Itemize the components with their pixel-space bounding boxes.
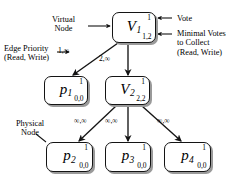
- edge-label-v2-p2: ∞,∞: [74, 117, 87, 125]
- annotation-vote: Vote: [177, 14, 192, 23]
- node-v1-minimal-votes: 1,2: [142, 33, 151, 41]
- edge-label-v2-p4: ∞,∞: [157, 117, 170, 125]
- node-p2[interactable]: 1 p2 0,0: [46, 142, 93, 172]
- virtual-node-tree-diagram: 1 V1 1,2 1 p1 0,0 1 V2 2,2 1 p2 0,0 1 p3…: [0, 0, 238, 183]
- node-p2-minimal-votes: 0,0: [79, 162, 88, 170]
- annotation-minimal-votes: Minimal Votes to Collect (Read, Write): [177, 29, 226, 57]
- node-p1[interactable]: 1 p1 0,0: [44, 76, 88, 105]
- node-v2[interactable]: 1 V2 2,2: [105, 76, 150, 105]
- node-p1-minimal-votes: 0,0: [74, 95, 83, 103]
- node-p3-minimal-votes: 0,0: [137, 162, 146, 170]
- edge-label-v1-p1: 1,∞: [58, 47, 69, 55]
- node-p4[interactable]: 1 p4 0,0: [164, 142, 211, 172]
- annotation-virtual-node: Virtual Node: [52, 15, 75, 34]
- edge-v1-p1: [73, 43, 118, 75]
- edge-label-v1-v2: 2,∞: [99, 55, 110, 63]
- edge-label-v2-p3: ∞,∞: [105, 117, 118, 125]
- node-v1[interactable]: 1 V1 1,2: [112, 12, 156, 43]
- annotation-edge-priority: Edge Priority (Read, Write): [4, 44, 49, 63]
- node-p4-minimal-votes: 0,0: [197, 162, 206, 170]
- node-v2-minimal-votes: 2,2: [136, 95, 145, 103]
- node-p3[interactable]: 1 p3 0,0: [105, 142, 151, 172]
- annotation-physical-node: Physical Node: [16, 119, 44, 138]
